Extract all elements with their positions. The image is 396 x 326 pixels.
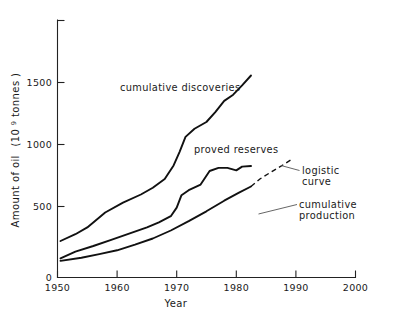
x-tick-labels: 1950 1960 1970 1980 1990 2000 <box>45 282 368 293</box>
annotation-leaders <box>259 166 300 215</box>
y-tick-label-1000: 1000 <box>27 139 52 150</box>
series-annotations: cumulative discoveries proved reserves l… <box>120 82 357 221</box>
x-tick-label-1990: 1990 <box>283 282 308 293</box>
y-axis-title: Amount of oil (10 9 tonnes ) <box>7 73 21 228</box>
y-axis-title-exponent: 9 <box>10 121 18 126</box>
series-cumulative-discoveries <box>61 76 252 242</box>
y-axis-title-main: Amount of oil <box>10 155 21 227</box>
annotation-cumulative-production-line2: production <box>299 210 355 221</box>
x-tick-label-2000: 2000 <box>343 282 368 293</box>
x-tick-label-1950: 1950 <box>45 282 70 293</box>
x-tick-label-1970: 1970 <box>164 282 189 293</box>
axis-titles: Year Amount of oil (10 9 tonnes ) <box>7 73 188 309</box>
x-tick-label-1960: 1960 <box>104 282 129 293</box>
y-tick-label-1500: 1500 <box>27 77 52 88</box>
x-tick-label-1980: 1980 <box>224 282 249 293</box>
y-axis-title-unit-open: (10 <box>10 129 21 147</box>
annotation-proved-reserves: proved reserves <box>194 144 278 155</box>
x-axis-title: Year <box>164 298 188 309</box>
annotation-logistic-line1: logistic <box>302 165 340 176</box>
y-tick-label-500: 500 <box>33 201 52 212</box>
chart-series-group <box>61 76 293 261</box>
annotation-logistic-line2: curve <box>302 176 331 187</box>
cumulative-production-leader-line <box>259 205 298 215</box>
series-logistic-curve <box>251 159 293 187</box>
oil-amount-line-chart: 1500 1000 500 0 1950 1960 1970 1980 1990… <box>0 0 396 326</box>
logistic-curve-leader-line <box>281 166 300 171</box>
y-axis-title-unit-tail: tonnes ) <box>10 73 21 117</box>
annotation-cumulative-discoveries: cumulative discoveries <box>120 82 240 93</box>
y-tick-label-0: 0 <box>46 272 52 283</box>
annotation-cumulative-production-line1: cumulative <box>299 199 357 210</box>
y-tick-labels: 1500 1000 500 0 <box>27 77 52 283</box>
series-proved-reserves <box>61 166 252 258</box>
